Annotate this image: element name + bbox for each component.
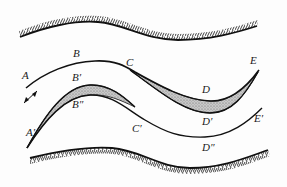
diagram-canvas: A B C D E B′ B″ A′ C′ D′ E′ D″ <box>0 0 287 187</box>
double-arrow-icon <box>24 91 37 103</box>
label-b-dprime: B″ <box>72 99 83 110</box>
label-d: D <box>202 84 210 95</box>
label-e-prime: E′ <box>254 113 263 124</box>
label-e: E <box>250 55 257 66</box>
line-abcde <box>26 61 259 101</box>
label-b: B <box>73 48 80 59</box>
label-a: A <box>22 70 29 81</box>
label-a-prime: A′ <box>26 127 35 138</box>
top-bank <box>19 16 258 40</box>
label-d-prime: D′ <box>202 116 212 127</box>
channel-diagram-svg <box>0 0 287 187</box>
bottom-bank <box>30 148 270 174</box>
label-c-prime: C′ <box>132 123 142 134</box>
label-d-dprime: D″ <box>202 142 215 153</box>
label-c: C <box>126 57 133 68</box>
label-b-prime: B′ <box>72 72 81 83</box>
